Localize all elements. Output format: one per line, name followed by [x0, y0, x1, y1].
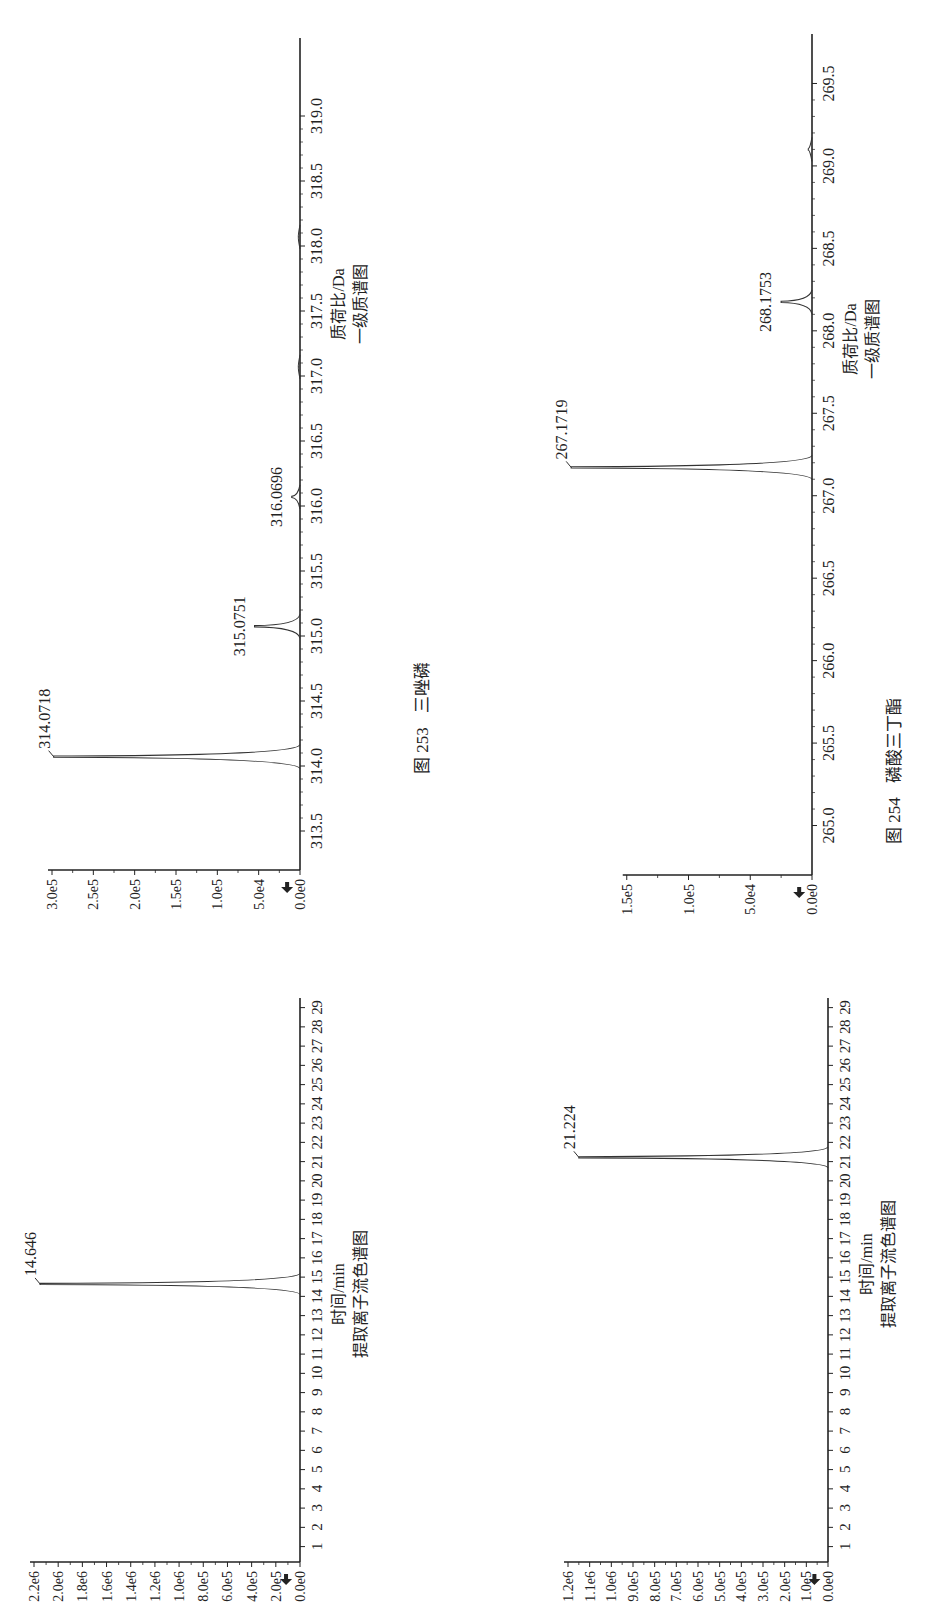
- y-tick-label: 6.0e5: [691, 1571, 706, 1602]
- y-tick-label: 5.0e5: [713, 1571, 728, 1602]
- x-tick-label: 8: [309, 1408, 325, 1415]
- x-tick-label: 27: [309, 1038, 325, 1053]
- chart-1: 0.0e05.0e41.0e51.5e52.0e52.5e53.0e5313.5…: [36, 38, 369, 910]
- y-tick-label: 1.2e6: [148, 1571, 163, 1602]
- x-tick-label: 24: [309, 1096, 325, 1111]
- y-tick-label: 2.0e6: [51, 1571, 66, 1602]
- x-axis-title: 时间/min: [858, 1233, 875, 1294]
- chart-0: 0.0e02.0e54.0e56.0e58.0e51.0e61.2e61.4e6…: [22, 998, 369, 1602]
- peak-label: 14.646: [22, 1232, 39, 1276]
- y-tick-label: 0.0e0: [293, 879, 308, 910]
- x-tick-label: 26: [837, 1057, 853, 1072]
- chart-subtitle: 一级质谱图: [864, 299, 881, 379]
- x-tick-label: 10: [309, 1366, 325, 1380]
- x-tick-label: 15: [837, 1270, 853, 1284]
- y-tick-label: 1.2e6: [561, 1571, 576, 1602]
- x-tick-label: 25: [309, 1078, 325, 1092]
- x-tick-label: 13: [837, 1309, 853, 1323]
- x-tick-label: 20: [309, 1174, 325, 1188]
- x-tick-label: 7: [309, 1427, 325, 1435]
- x-tick-label: 316.5: [308, 423, 325, 459]
- y-tick-label: 1.0e5: [799, 1571, 814, 1602]
- y-tick-label: 9.0e5: [626, 1571, 641, 1602]
- peak-label: 268.1753: [757, 272, 774, 332]
- y-tick-label: 1.5e5: [169, 879, 184, 910]
- chart-subtitle: 一级质谱图: [352, 264, 369, 344]
- y-tick-label: 4.0e5: [245, 1571, 260, 1602]
- peak-label: 267.1719: [553, 399, 570, 459]
- x-tick-label: 9: [309, 1389, 325, 1396]
- y-tick-label: 2.0e5: [778, 1571, 793, 1602]
- x-tick-label: 1: [309, 1543, 325, 1550]
- x-tick-label: 14: [309, 1288, 325, 1303]
- x-tick-label: 23: [309, 1116, 325, 1130]
- x-tick-label: 20: [837, 1174, 853, 1188]
- peak: [579, 1147, 828, 1168]
- x-tick-label: 17: [837, 1231, 853, 1246]
- chart-subtitle: 提取离子流色谱图: [352, 1230, 369, 1358]
- x-tick-label: 27: [837, 1038, 853, 1053]
- x-tick-label: 22: [837, 1135, 853, 1149]
- x-tick-label: 11: [309, 1347, 325, 1360]
- x-tick-label: 12: [837, 1328, 853, 1342]
- x-tick-label: 11: [837, 1347, 853, 1360]
- x-tick-label: 21: [309, 1155, 325, 1169]
- y-tick-label: 1.1e6: [583, 1571, 598, 1602]
- x-tick-label: 25: [837, 1078, 853, 1092]
- x-tick-label: 10: [837, 1366, 853, 1380]
- x-tick-label: 269.5: [820, 65, 837, 101]
- x-tick-label: 24: [837, 1096, 853, 1111]
- peak: [54, 745, 300, 769]
- x-tick-label: 6: [837, 1446, 853, 1454]
- x-tick-label: 15: [309, 1270, 325, 1284]
- y-tick-label: 3.0e5: [45, 879, 60, 910]
- y-tick-label: 0.0e0: [293, 1571, 308, 1602]
- peak-label: 315.0751: [231, 596, 248, 656]
- x-tick-label: 2: [837, 1524, 853, 1531]
- x-tick-label: 8: [837, 1408, 853, 1415]
- y-tick-label: 1.5e5: [620, 884, 635, 915]
- figure-253-caption: 图 253三唑磷: [408, 662, 433, 774]
- figure-253-number: 图 253: [413, 727, 432, 774]
- y-tick-label: 6.0e5: [220, 1571, 235, 1602]
- x-tick-label: 21: [837, 1155, 853, 1169]
- y-tick-label: 2.0e5: [269, 1571, 284, 1602]
- x-tick-label: 29: [309, 1001, 325, 1015]
- x-tick-label: 19: [309, 1193, 325, 1207]
- y-tick-label: 1.8e6: [75, 1571, 90, 1602]
- x-tick-label: 23: [837, 1116, 853, 1130]
- y-tick-label: 7.0e5: [669, 1571, 684, 1602]
- figure-253-title: 三唑磷: [413, 662, 432, 713]
- x-tick-label: 7: [837, 1427, 853, 1435]
- x-tick-label: 318.0: [308, 228, 325, 264]
- peak-label: 314.0718: [36, 689, 53, 749]
- x-tick-label: 268.5: [820, 230, 837, 266]
- y-tick-label: 2.0e5: [128, 879, 143, 910]
- x-tick-label: 26: [309, 1057, 325, 1072]
- peak-label: 316.0696: [268, 467, 285, 527]
- x-tick-label: 316.0: [308, 488, 325, 524]
- x-tick-label: 22: [309, 1135, 325, 1149]
- y-tick-label: 1.0e6: [604, 1571, 619, 1602]
- x-tick-label: 267.5: [820, 395, 837, 431]
- y-tick-label: 8.0e5: [196, 1571, 211, 1602]
- peak: [571, 455, 812, 479]
- x-tick-label: 267.0: [820, 478, 837, 514]
- chart-2: 0.0e01.0e52.0e53.0e54.0e55.0e56.0e57.0e5…: [561, 998, 897, 1602]
- x-tick-label: 18: [309, 1212, 325, 1226]
- x-tick-label: 29: [837, 1001, 853, 1015]
- x-tick-label: 313.5: [308, 813, 325, 849]
- y-tick-label: 1.0e6: [172, 1571, 187, 1602]
- x-tick-label: 319.0: [308, 98, 325, 134]
- x-tick-label: 314.0: [308, 748, 325, 784]
- x-tick-label: 5: [837, 1466, 853, 1473]
- peak: [40, 1273, 300, 1294]
- x-axis-title: 质荷比/Da: [842, 303, 859, 374]
- y-tick-label: 2.5e5: [86, 879, 101, 910]
- x-tick-label: 315.0: [308, 618, 325, 654]
- x-tick-label: 1: [837, 1543, 853, 1550]
- x-tick-label: 13: [309, 1309, 325, 1323]
- figure-254-title: 磷酸三丁酯: [885, 698, 904, 783]
- x-tick-label: 4: [309, 1484, 325, 1492]
- x-tick-label: 315.5: [308, 553, 325, 589]
